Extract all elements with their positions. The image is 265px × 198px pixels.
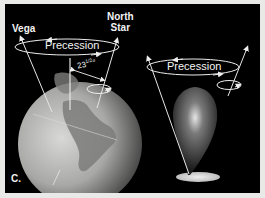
spin-ellipse-right — [217, 81, 241, 90]
vega-label: Vega — [12, 24, 35, 34]
north-star-label: North Star — [107, 11, 134, 33]
north-star-line1: North — [107, 11, 134, 22]
precession-label-right: Precession — [167, 61, 221, 72]
tilt-arrow — [73, 70, 103, 80]
figure-panel: Vega North Star Precession 231/2° Preces… — [5, 4, 260, 193]
precession-label-left: Precession — [45, 40, 99, 51]
spinning-top-illustration — [173, 87, 220, 182]
earth-illustration — [18, 72, 142, 193]
north-star-line2: Star — [107, 22, 134, 33]
top-shadow — [176, 172, 220, 182]
panel-label: C. — [11, 174, 21, 184]
